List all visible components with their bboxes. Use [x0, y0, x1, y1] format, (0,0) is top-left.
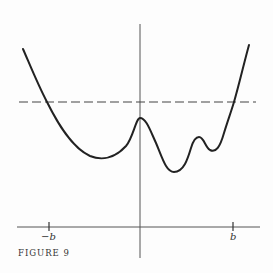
tick-label-minus-b: −b — [41, 231, 56, 242]
tick-label-b: b — [230, 231, 236, 242]
figure-caption: FIGURE 9 — [18, 248, 70, 258]
potential-curve — [23, 45, 249, 172]
figure: −b b FIGURE 9 — [0, 0, 273, 273]
